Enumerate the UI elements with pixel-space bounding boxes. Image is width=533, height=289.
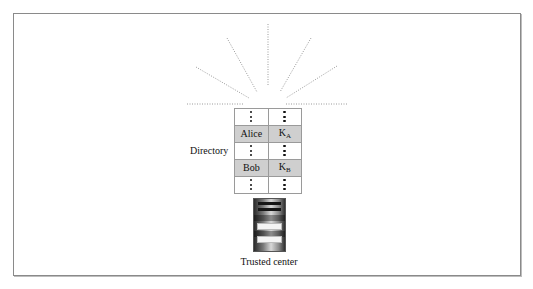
key-cell: KA: [268, 126, 301, 143]
server-stripe: [258, 202, 281, 205]
name-cell: [235, 143, 269, 160]
ray-right: [286, 66, 337, 98]
ray-left: [196, 67, 249, 98]
directory-row-ellipsis: [235, 143, 302, 160]
key-cell: [268, 143, 301, 160]
key-subscript: A: [286, 132, 291, 140]
vertical-ellipsis-icon: [283, 145, 286, 157]
ray-upper-right: [280, 38, 311, 92]
key-symbol: K: [279, 161, 286, 172]
directory-table: Alice KA Bob KB: [234, 108, 302, 194]
key-cell: [268, 109, 301, 126]
vertical-ellipsis-icon: [250, 179, 253, 191]
vertical-ellipsis-icon: [283, 111, 286, 123]
name-cell: Alice: [235, 126, 269, 143]
server-tower-icon: [253, 198, 286, 252]
key-cell: KB: [268, 160, 301, 177]
directory-row-ellipsis: [235, 177, 302, 194]
directory-row-ellipsis: [235, 109, 302, 126]
key-cell: [268, 177, 301, 194]
server-drive-slot: [257, 223, 282, 230]
server-drive-slot: [257, 236, 282, 243]
server-band: [254, 215, 285, 221]
directory-row-alice: Alice KA: [235, 126, 302, 143]
directory-label: Directory: [190, 145, 228, 156]
key-subscript: B: [286, 166, 291, 174]
vertical-ellipsis-icon: [250, 111, 253, 123]
server-stripe: [258, 208, 281, 211]
key-symbol: K: [279, 127, 286, 138]
name-cell: [235, 177, 269, 194]
name-cell: Bob: [235, 160, 269, 177]
trusted-center-label: Trusted center: [240, 256, 298, 267]
vertical-ellipsis-icon: [250, 145, 253, 157]
name-cell: [235, 109, 269, 126]
directory-row-bob: Bob KB: [235, 160, 302, 177]
vertical-ellipsis-icon: [283, 179, 286, 191]
ray-upper-left: [227, 38, 257, 92]
